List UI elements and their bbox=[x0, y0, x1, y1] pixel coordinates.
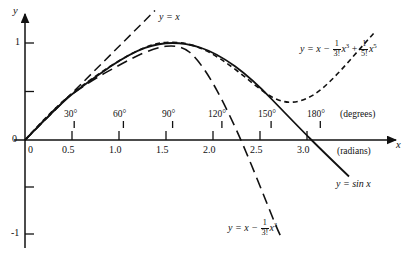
x-tick-label-60-deg: 60° bbox=[113, 110, 126, 120]
x-tick-label-0-5: 0.5 bbox=[62, 145, 75, 155]
quintic-label-prefix: y = x − bbox=[300, 43, 332, 54]
quintic-label-denominator-1: 3! bbox=[333, 50, 341, 59]
x-tick-label-1-0: 1.0 bbox=[109, 145, 122, 155]
cubic-label-exponent: 3 bbox=[274, 221, 277, 228]
cubic-label-denominator: 3! bbox=[261, 229, 269, 238]
quintic-label-fraction-1: 13! bbox=[333, 40, 341, 58]
quintic-label-plus: + bbox=[349, 43, 360, 54]
x-axis-unit-radians: (radians) bbox=[337, 147, 371, 157]
y-axis-label: y bbox=[13, 6, 18, 17]
cubic-label-fraction: 13! bbox=[261, 219, 269, 237]
x-axis-ticks-degrees bbox=[74, 121, 320, 128]
y-tick-label-0: 0 bbox=[12, 134, 17, 144]
plot-canvas bbox=[0, 0, 411, 253]
x-tick-label-0: 0 bbox=[28, 145, 33, 155]
y-tick-label-1: 1 bbox=[15, 37, 20, 47]
quintic-label-denominator-2: 5! bbox=[360, 50, 368, 59]
x-tick-label-30-deg: 30° bbox=[64, 110, 77, 120]
x-axis-label: x bbox=[396, 140, 401, 151]
curve-label-sine: y = sin x bbox=[336, 179, 371, 189]
figure-sine-taylor-approximations: y x 0 1 -1 0 0.5 1.0 1.5 2.0 2.5 3.0 (ra… bbox=[0, 0, 411, 253]
x-tick-label-180-deg: 180° bbox=[307, 110, 325, 120]
x-tick-label-2-5: 2.5 bbox=[250, 145, 263, 155]
x-tick-label-1-5: 1.5 bbox=[156, 145, 169, 155]
x-tick-label-2-0: 2.0 bbox=[203, 145, 216, 155]
cubic-label-prefix: y = x − bbox=[228, 222, 260, 233]
curve-label-linear: y = x bbox=[159, 12, 180, 22]
x-axis-unit-degrees: (degrees) bbox=[340, 110, 375, 120]
x-tick-label-90-deg: 90° bbox=[162, 110, 175, 120]
x-tick-label-120-deg: 120° bbox=[208, 110, 226, 120]
quintic-label-exponent-2: 5 bbox=[373, 42, 376, 49]
curve-label-quintic-taylor: y = x − 13!x3 + 15!x5 bbox=[300, 40, 377, 58]
curve-label-cubic-taylor: y = x − 13!x3 bbox=[228, 219, 277, 237]
x-tick-label-150-deg: 150° bbox=[258, 110, 276, 120]
x-axis-ticks-radians bbox=[72, 131, 307, 140]
x-tick-label-3-0: 3.0 bbox=[297, 145, 310, 155]
y-tick-label-minus-1: -1 bbox=[11, 228, 19, 238]
quintic-label-fraction-2: 15! bbox=[360, 40, 368, 58]
